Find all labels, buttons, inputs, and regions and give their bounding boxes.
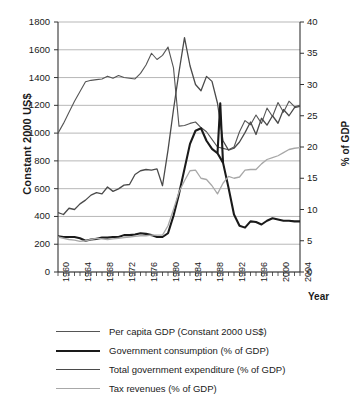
- chart-figure: Constant 2000 US$ % of GDP Year 02004006…: [0, 0, 353, 402]
- legend-item-0[interactable]: Per capita GDP (Constant 2000 US$): [0, 322, 353, 341]
- series-line-0: [58, 47, 300, 150]
- legend-label-0: Per capita GDP (Constant 2000 US$): [109, 326, 267, 337]
- chart-legend: Per capita GDP (Constant 2000 US$)Govern…: [0, 322, 353, 398]
- legend-swatch-2: [56, 369, 100, 370]
- legend-label-1: Government consumption (% of GDP): [109, 345, 269, 356]
- legend-label-2: Total government expenditure (% of GDP): [109, 364, 285, 375]
- legend-swatch-1: [56, 350, 100, 352]
- legend-label-3: Tax revenues (% of GDP): [109, 383, 217, 394]
- legend-swatch-3: [56, 388, 100, 389]
- legend-swatch-0: [56, 331, 100, 332]
- legend-item-2[interactable]: Total government expenditure (% of GDP): [0, 360, 353, 379]
- legend-item-3[interactable]: Tax revenues (% of GDP): [0, 379, 353, 398]
- series-line-1: [58, 128, 300, 241]
- legend-item-1[interactable]: Government consumption (% of GDP): [0, 341, 353, 360]
